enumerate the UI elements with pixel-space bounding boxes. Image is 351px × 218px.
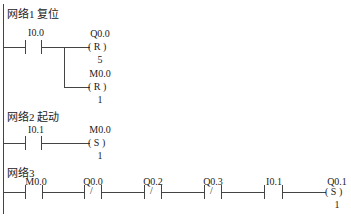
contact-label: I0.1 bbox=[16, 124, 56, 135]
reset-coil: ( R ) bbox=[88, 81, 106, 92]
contact-label: I0.1 bbox=[254, 176, 294, 187]
wire bbox=[101, 192, 144, 193]
network-2-title: 网络2 起动 bbox=[7, 108, 59, 124]
contact-nc-left bbox=[144, 185, 145, 199]
nc-slash: / bbox=[90, 185, 93, 196]
contact-label: Q0.2 bbox=[133, 176, 173, 187]
network-1-title: 网络1 复位 bbox=[7, 5, 59, 21]
reset-coil: ( R ) bbox=[88, 41, 106, 52]
wire bbox=[3, 143, 25, 144]
contact-no-left bbox=[264, 185, 265, 199]
contact-no-left bbox=[25, 185, 26, 199]
branch-wire bbox=[64, 47, 65, 87]
set-coil: ( S ) bbox=[325, 186, 342, 197]
coil-label: M0.0 bbox=[80, 124, 120, 135]
contact-label: Q0.0 bbox=[73, 176, 113, 187]
coil-count: 1 bbox=[90, 94, 110, 105]
wire bbox=[161, 192, 204, 193]
nc-slash: / bbox=[150, 185, 153, 196]
coil-count: 1 bbox=[327, 199, 347, 210]
coil-label: Q0.0 bbox=[80, 28, 120, 39]
contact-label: Q0.3 bbox=[193, 176, 233, 187]
contact-nc-left bbox=[204, 185, 205, 199]
contact-label: I0.0 bbox=[16, 27, 56, 38]
coil-count: 5 bbox=[90, 54, 110, 65]
wire bbox=[64, 87, 90, 88]
wire bbox=[3, 192, 25, 193]
wire bbox=[41, 143, 90, 144]
wire bbox=[221, 192, 264, 193]
wire bbox=[282, 192, 326, 193]
contact-nc-left bbox=[84, 185, 85, 199]
contact-label: M0.0 bbox=[16, 176, 56, 187]
wire bbox=[41, 47, 90, 48]
power-rail bbox=[3, 4, 4, 214]
wire bbox=[3, 47, 25, 48]
contact-no-left bbox=[25, 136, 26, 150]
nc-slash: / bbox=[210, 185, 213, 196]
coil-count: 1 bbox=[90, 150, 110, 161]
contact-no-left bbox=[25, 40, 26, 54]
set-coil: ( S ) bbox=[88, 137, 105, 148]
wire bbox=[42, 192, 84, 193]
coil-label: M0.0 bbox=[80, 68, 120, 79]
